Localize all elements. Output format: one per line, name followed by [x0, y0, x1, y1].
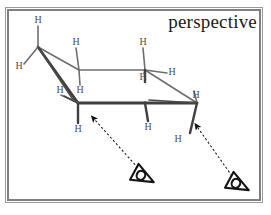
eye-symbol-right [225, 172, 253, 198]
atom-label-hydrogen: H [144, 122, 151, 132]
sightlines [95, 120, 232, 176]
bond-c5-h-axial [145, 103, 148, 121]
bond-c1-h-equatorial [24, 47, 38, 64]
atom-label-hydrogen: H [72, 37, 79, 47]
perspective-figure: perspective HHHHHHHHHHHH [0, 0, 271, 215]
atom-label-hydrogen: H [56, 85, 63, 95]
page-title: perspective [168, 11, 257, 33]
eye-symbol-left [130, 164, 158, 190]
bond-c4-h-axial [190, 103, 197, 133]
sightline-left-line [95, 120, 138, 168]
atom-label-hydrogen: H [139, 72, 146, 82]
atom-label-hydrogen: H [192, 90, 199, 100]
bond-c1-c2 [38, 47, 79, 70]
atom-label-hydrogen: H [168, 67, 175, 77]
atom-label-hydrogen: H [139, 37, 146, 47]
atom-label-hydrogen: H [74, 124, 81, 134]
bond-c3-h-axial [143, 48, 145, 70]
bond-c2-h-axial [76, 48, 79, 70]
atom-label-hydrogen: H [34, 15, 41, 25]
bond-c2-h-down [79, 70, 80, 85]
atom-label-hydrogen: H [174, 134, 181, 144]
atom-label-hydrogen: H [15, 61, 22, 71]
atom-label-hydrogen: H [76, 85, 83, 95]
sightline-right-line [198, 128, 232, 176]
